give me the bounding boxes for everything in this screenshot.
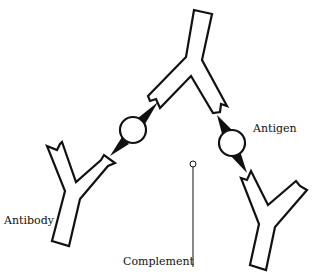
complement-marker: [190, 161, 196, 267]
antibody-right: [241, 171, 307, 270]
antibody-left: [47, 142, 115, 246]
label-antigen: Antigen: [252, 122, 297, 135]
antigen-left: [110, 102, 158, 156]
label-complement: Complement: [123, 255, 195, 268]
label-antibody: Antibody: [3, 214, 55, 227]
immune-complex-diagram: Antigen Antibody Complement: [0, 0, 318, 276]
antigen-right: [217, 115, 247, 173]
antibody-top: [148, 10, 227, 113]
